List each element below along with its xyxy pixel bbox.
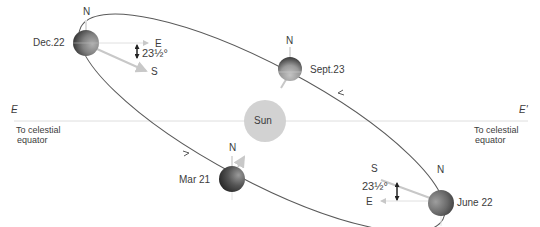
south-label-june22: S [371,163,378,174]
orbit-diagram [0,0,540,227]
date-label-june22: June 22 [457,197,493,208]
tilt-label-june22: 23½° [362,181,388,192]
date-label-dec22: Dec.22 [33,37,65,48]
south-label-dec22: S [151,66,158,77]
equator-right-label: E' [519,104,528,115]
right-caption-line2: equator [475,135,506,145]
north-label-mar21: N [229,142,236,153]
tilt-label-dec22: 23½° [142,48,168,59]
earth-sept23 [278,47,302,88]
left-caption-line2: equator [17,135,48,145]
north-label-sept23: N [286,35,293,46]
earth-dec22 [73,20,148,71]
orbit-direction-arrow [183,151,189,156]
north-label-june22: N [437,164,444,175]
equator-left-label: E [11,104,18,115]
date-label-mar21: Mar 21 [179,174,210,185]
north-label-dec22: N [83,6,90,17]
sun-label: Sun [254,115,272,126]
date-label-sept23: Sept.23 [310,64,344,75]
orbit-direction-arrow [338,90,344,95]
earth-mar21 [219,156,245,200]
right-caption-line1: To celestial [474,125,519,135]
left-caption-line1: To celestial [16,125,61,135]
east-label-june22: E [366,196,373,207]
